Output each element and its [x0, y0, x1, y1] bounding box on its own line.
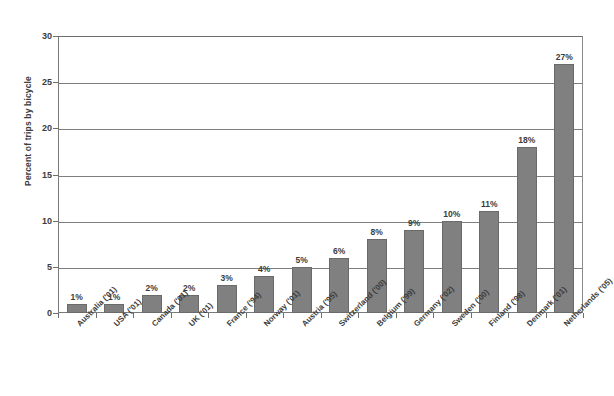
- plot-area: [58, 36, 583, 313]
- y-tick-label: 10: [30, 216, 52, 226]
- y-tick-mark: [53, 128, 59, 129]
- y-tick-label: 5: [30, 262, 52, 272]
- y-tick-label: 15: [30, 170, 52, 180]
- gridline: [59, 268, 582, 269]
- y-tick-label: 25: [30, 77, 52, 87]
- y-tick-mark: [53, 82, 59, 83]
- y-tick-mark: [53, 221, 59, 222]
- gridline: [59, 129, 582, 130]
- y-tick-label: 30: [30, 31, 52, 41]
- y-tick-mark: [53, 175, 59, 176]
- gridline: [59, 83, 582, 84]
- x-tick-mark: [583, 313, 584, 318]
- gridline: [59, 176, 582, 177]
- y-tick-mark: [53, 36, 59, 37]
- x-axis-labels: Australia ('01)USA ('01)Canada ('01)UK (…: [58, 318, 583, 396]
- y-tick-label: 0: [30, 308, 52, 318]
- gridline: [59, 222, 582, 223]
- y-tick-mark: [53, 267, 59, 268]
- y-tick-label: 20: [30, 123, 52, 133]
